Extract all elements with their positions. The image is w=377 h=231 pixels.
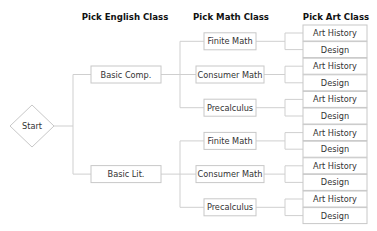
math-option-consumer-math[interactable]: Consumer Math [196, 166, 264, 183]
header-english: Pick English Class [82, 12, 169, 22]
art-option-design[interactable]: Design [303, 174, 367, 190]
nodes: Art HistoryDesignFinite MathArt HistoryD… [91, 25, 367, 224]
art-option-design[interactable]: Design [303, 42, 367, 58]
header-art: Pick Art Class [303, 12, 369, 22]
english-option-basic-comp-label: Basic Comp. [101, 70, 152, 80]
start-node[interactable]: Start [10, 105, 54, 147]
math-option-precalculus[interactable]: Precalculus [204, 99, 256, 116]
art-option-art-history-label: Art History [313, 194, 357, 204]
art-option-art-history[interactable]: Art History [303, 91, 367, 107]
art-option-art-history-label: Art History [313, 61, 357, 71]
math-option-precalculus-label: Precalculus [207, 202, 253, 212]
art-option-art-history[interactable]: Art History [303, 125, 367, 141]
art-option-design-label: Design [321, 144, 349, 154]
decision-tree-diagram: Pick English Class Pick Math Class Pick … [0, 0, 377, 231]
connectors [54, 33, 303, 216]
art-option-art-history-label: Art History [313, 161, 357, 171]
art-option-design-label: Design [321, 45, 349, 55]
math-option-consumer-math-label: Consumer Math [198, 169, 263, 179]
start-label: Start [22, 121, 43, 131]
art-option-art-history[interactable]: Art History [303, 191, 367, 207]
art-option-design-label: Design [321, 111, 349, 121]
math-option-precalculus-label: Precalculus [207, 103, 253, 113]
art-option-design-label: Design [321, 177, 349, 187]
math-option-finite-math[interactable]: Finite Math [204, 33, 256, 50]
art-option-design-label: Design [321, 78, 349, 88]
english-option-basic-lit-label: Basic Lit. [108, 169, 145, 179]
math-option-precalculus[interactable]: Precalculus [204, 199, 256, 216]
art-option-art-history[interactable]: Art History [303, 158, 367, 174]
math-option-consumer-math[interactable]: Consumer Math [196, 66, 264, 83]
math-option-finite-math-label: Finite Math [207, 136, 252, 146]
english-option-basic-comp[interactable]: Basic Comp. [91, 66, 161, 83]
art-option-art-history[interactable]: Art History [303, 58, 367, 74]
art-option-design-label: Design [321, 211, 349, 221]
art-option-design[interactable]: Design [303, 208, 367, 224]
art-option-art-history-label: Art History [313, 28, 357, 38]
math-option-consumer-math-label: Consumer Math [198, 70, 263, 80]
art-option-art-history-label: Art History [313, 94, 357, 104]
header-math: Pick Math Class [193, 12, 269, 22]
art-option-art-history[interactable]: Art History [303, 25, 367, 41]
art-option-design[interactable]: Design [303, 108, 367, 124]
art-option-design[interactable]: Design [303, 75, 367, 91]
art-option-art-history-label: Art History [313, 128, 357, 138]
art-option-design[interactable]: Design [303, 141, 367, 157]
english-option-basic-lit[interactable]: Basic Lit. [91, 166, 161, 183]
math-option-finite-math[interactable]: Finite Math [204, 132, 256, 149]
math-option-finite-math-label: Finite Math [207, 36, 252, 46]
